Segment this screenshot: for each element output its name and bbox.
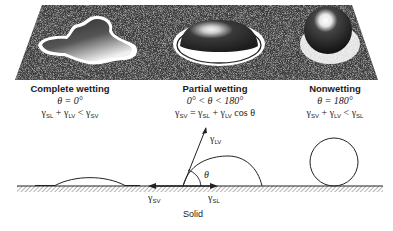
gamma-lv-label: γLV — [210, 134, 221, 145]
complete-wetting-relation: γSL + γLV < γSV — [10, 108, 130, 119]
complete-wetting-title: Complete wetting — [10, 84, 130, 94]
nonwetting-title: Nonwetting — [285, 84, 385, 94]
solid-surface — [17, 186, 383, 192]
theta-label: θ — [204, 170, 209, 180]
partial-wetting-angle: 0° < θ < 180° — [150, 96, 280, 106]
gamma-sl-label: γSL — [208, 193, 220, 204]
gamma-sv-label: γSV — [148, 193, 160, 204]
partial-drop-profile — [183, 156, 262, 186]
cross-section-schematic — [17, 127, 383, 192]
nonwetting-drop-profile — [310, 138, 358, 186]
solid-label: Solid — [178, 210, 208, 219]
partial-wetting-relation: γSV = γSL + γLV cos θ — [145, 108, 285, 119]
partial-wetting-title: Partial wetting — [150, 84, 280, 94]
thin-film — [35, 178, 140, 186]
complete-wetting-angle: θ = 0° — [10, 96, 130, 106]
nonwetting-relation: γSV + γLV < γSL — [280, 108, 390, 119]
nonwetting-angle: θ = 180° — [285, 96, 385, 106]
arrow-lv — [202, 127, 207, 134]
wetting-diagram: Complete wetting θ = 0° γSL + γLV < γSV … — [0, 0, 393, 231]
